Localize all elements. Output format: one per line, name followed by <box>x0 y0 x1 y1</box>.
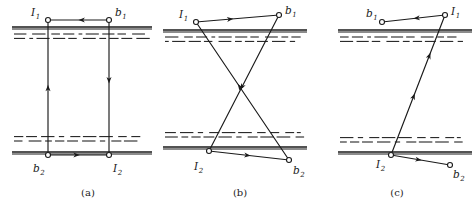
node-label-b2: b2 <box>293 164 305 179</box>
panel-c: b1I1I2b2(c) <box>338 5 472 198</box>
node-marker-b1 <box>107 18 112 23</box>
node-label-b2: b2 <box>33 162 45 177</box>
boundary-band-c-0 <box>338 30 472 41</box>
segment-c-slant-riser <box>391 15 445 155</box>
panel-caption-b: (b) <box>233 187 247 198</box>
segment-c-slant-mid <box>426 52 433 60</box>
node-label-subscript-b2: 2 <box>39 169 45 177</box>
boundary-band-b-0 <box>163 30 307 41</box>
node-marker-I2 <box>389 153 394 158</box>
node-a-b2: b2 <box>33 153 51 177</box>
segment-c-bottom-link <box>391 155 450 165</box>
node-label-subscript-b2: 2 <box>299 171 305 179</box>
node-c-I2: I2 <box>375 153 394 173</box>
segment-a-bottom-link <box>48 153 109 158</box>
ray-path-figure: I1b1b2I2(a)I1b1I2b2(b)b1I1I2b2(c) <box>0 0 475 207</box>
node-label-subscript-I1: 1 <box>456 12 460 20</box>
node-b-b1: b1 <box>277 4 297 19</box>
node-c-I1: I1 <box>443 5 461 20</box>
node-label-b1: b1 <box>115 6 127 21</box>
node-label-subscript-b1: 1 <box>373 14 377 22</box>
node-marker-I1 <box>194 20 199 25</box>
segment-a-top-link <box>48 18 109 23</box>
boundary-band-a-1 <box>12 137 152 154</box>
node-marker-I2 <box>107 153 112 158</box>
node-marker-I2 <box>207 149 212 154</box>
node-label-subscript-I2: 2 <box>380 165 386 173</box>
segment-a-right-riser <box>107 20 112 155</box>
node-label-subscript-b2: 2 <box>459 175 465 183</box>
node-label-I1: I1 <box>450 5 460 20</box>
node-c-b2: b2 <box>448 163 466 183</box>
node-b-I2: I2 <box>193 149 212 175</box>
ray-line <box>391 15 445 155</box>
segment-b-cross-rising <box>196 22 289 160</box>
panel-a: I1b1b2I2(a) <box>12 6 152 198</box>
node-label-subscript-I2: 2 <box>198 167 204 175</box>
node-label-I1: I1 <box>30 6 40 21</box>
node-label-subscript-I2: 2 <box>117 169 123 177</box>
node-a-b1: b1 <box>107 6 127 23</box>
segment-b-top-link <box>196 15 279 22</box>
node-a-I1: I1 <box>30 6 51 23</box>
node-label-subscript-b1: 1 <box>122 13 126 21</box>
ray-line <box>196 22 289 160</box>
direction-arrow-icon <box>410 93 417 101</box>
node-c-b1: b1 <box>366 7 385 25</box>
node-marker-b2 <box>287 158 292 163</box>
boundary-band-c-1 <box>338 138 472 154</box>
direction-arrow-icon <box>426 52 433 60</box>
node-marker-I1 <box>46 18 51 23</box>
node-marker-b1 <box>380 20 385 25</box>
node-label-b1: b1 <box>285 4 297 19</box>
node-label-I2: I2 <box>375 158 386 173</box>
node-marker-b2 <box>46 153 51 158</box>
node-label-I1: I1 <box>178 8 188 23</box>
node-label-subscript-I1: 1 <box>184 15 188 23</box>
node-marker-b1 <box>277 13 282 18</box>
node-label-subscript-b1: 1 <box>292 11 296 19</box>
node-label-b1: b1 <box>366 7 378 22</box>
figure-root: I1b1b2I2(a)I1b1I2b2(b)b1I1I2b2(c) <box>0 0 475 207</box>
node-label-I2: I2 <box>193 160 204 175</box>
node-b-I1: I1 <box>178 8 199 25</box>
panel-caption-a: (a) <box>81 187 95 198</box>
node-a-I2: I2 <box>107 153 123 177</box>
node-label-subscript-I1: 1 <box>36 13 40 21</box>
node-marker-b2 <box>448 163 453 168</box>
ray-line <box>196 15 279 22</box>
node-label-b2: b2 <box>453 168 465 183</box>
boundary-band-a-0 <box>12 27 152 38</box>
node-label-I2: I2 <box>112 162 123 177</box>
node-marker-I1 <box>443 13 448 18</box>
panel-caption-c: (c) <box>390 187 404 198</box>
panel-b: I1b1I2b2(b) <box>163 4 307 198</box>
segment-a-left-riser <box>46 20 51 155</box>
boundary-band-b-1 <box>163 133 307 149</box>
segment-c-top-link <box>382 15 445 22</box>
segment-b-bottom-link <box>209 151 289 160</box>
node-b-b2: b2 <box>287 158 306 179</box>
